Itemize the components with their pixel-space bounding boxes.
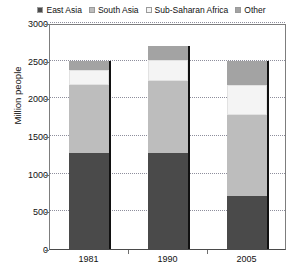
legend-swatch-icon <box>89 7 95 13</box>
bar-segment-south-asia[interactable] <box>148 81 188 153</box>
bar-segment-other[interactable] <box>227 61 267 85</box>
legend-swatch-icon <box>37 7 43 13</box>
bar-stack[interactable] <box>69 61 111 249</box>
y-axis-tick-label: 500 <box>2 208 48 217</box>
legend-item-other[interactable]: Other <box>235 6 265 15</box>
x-axis-tick-label: 1981 <box>59 254 119 264</box>
y-axis-tick-mark <box>45 24 49 25</box>
legend-item-label: South Asia <box>98 6 139 15</box>
legend-item-label: Sub-Saharan Africa <box>155 6 229 15</box>
y-axis-tick-mark <box>45 62 49 63</box>
legend-item-label: East Asia <box>46 6 81 15</box>
y-axis-tick-mark <box>45 137 49 138</box>
y-axis-tick-label: 1000 <box>2 171 48 180</box>
legend-item-label: Other <box>244 6 265 15</box>
x-axis-tick-label: 2005 <box>217 254 277 264</box>
y-axis-tick-label: 3000 <box>2 20 48 29</box>
bar-stack[interactable] <box>227 61 269 249</box>
legend-item-east-asia[interactable]: East Asia <box>37 6 81 15</box>
x-axis-tick-mark <box>128 250 129 254</box>
x-axis-tick-mark <box>207 250 208 254</box>
chart-legend: East AsiaSouth AsiaSub-Saharan AfricaOth… <box>0 3 303 17</box>
legend-swatch-icon <box>146 7 152 13</box>
bar-segment-south-asia[interactable] <box>227 115 267 196</box>
plot-area <box>49 24 286 250</box>
legend-item-sub-saharan-africa[interactable]: Sub-Saharan Africa <box>146 6 229 15</box>
bar-segment-sub-saharan-africa[interactable] <box>148 60 188 81</box>
y-axis-tick-label: 2000 <box>2 95 48 104</box>
y-axis-tick-mark <box>45 250 49 251</box>
y-axis-tick-mark <box>45 99 49 100</box>
bar-stack[interactable] <box>148 46 190 249</box>
bar-segment-east-asia[interactable] <box>69 153 109 249</box>
x-axis-tick-label: 1990 <box>138 254 198 264</box>
bar-segment-sub-saharan-africa[interactable] <box>227 85 267 115</box>
legend-item-south-asia[interactable]: South Asia <box>89 6 139 15</box>
bar-segment-other[interactable] <box>148 46 188 60</box>
bar-segment-east-asia[interactable] <box>227 196 267 249</box>
gridline <box>50 22 285 23</box>
y-axis-title: Million people <box>12 41 23 151</box>
y-axis-tick-label: 1500 <box>2 133 48 142</box>
y-axis-tick-label: 2500 <box>2 58 48 67</box>
y-axis-tick-mark <box>45 212 49 213</box>
y-axis-tick-label: 0 <box>2 246 48 255</box>
bar-segment-sub-saharan-africa[interactable] <box>69 70 109 85</box>
stacked-bar-chart: East AsiaSouth AsiaSub-Saharan AfricaOth… <box>0 0 303 279</box>
bar-segment-east-asia[interactable] <box>148 153 188 249</box>
bar-segment-south-asia[interactable] <box>69 85 109 153</box>
legend-swatch-icon <box>235 7 241 13</box>
y-axis-tick-mark <box>45 175 49 176</box>
bar-segment-other[interactable] <box>69 61 109 70</box>
